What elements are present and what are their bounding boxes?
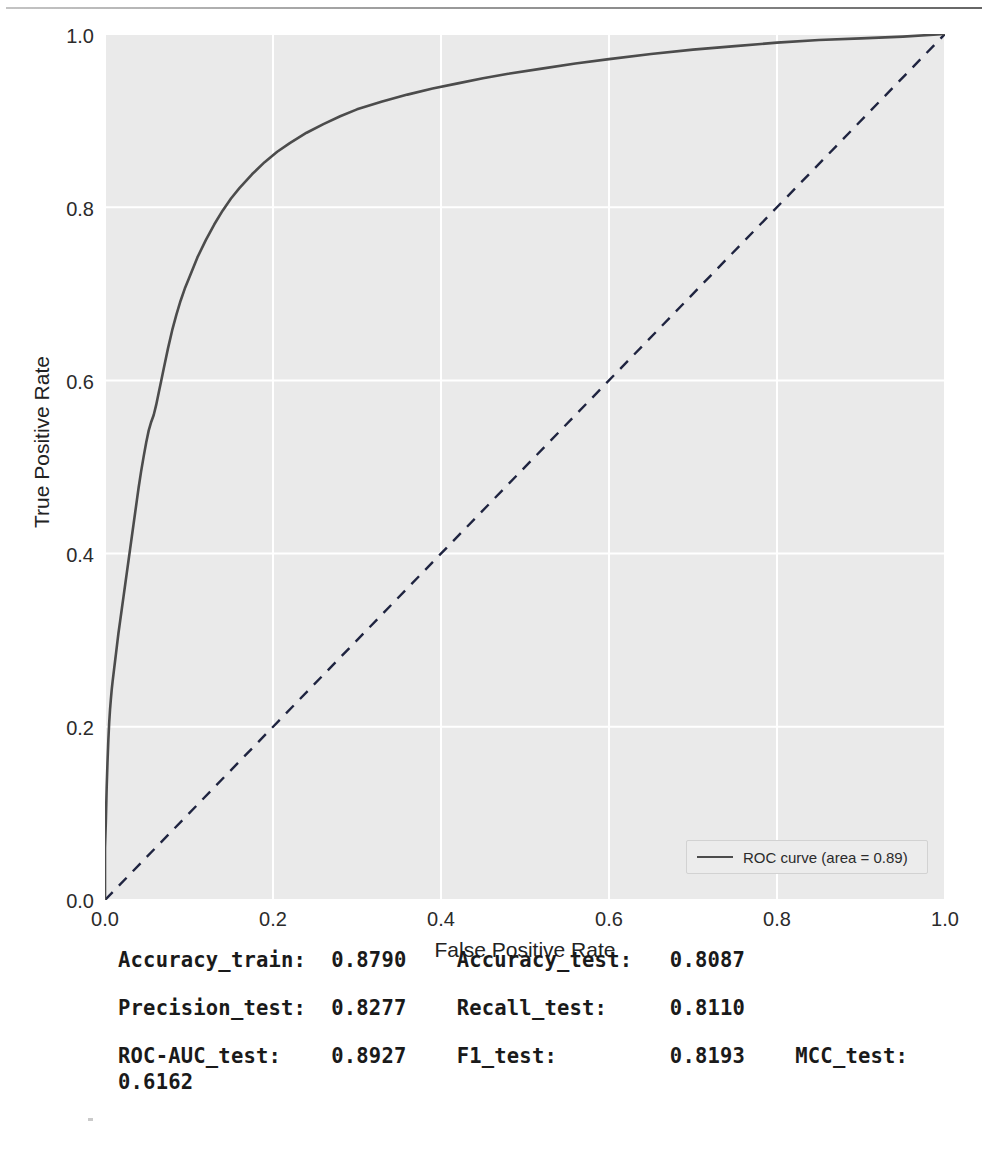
metrics-row: ROC-AUC_test: 0.8927 F1_test: 0.8193 MCC… xyxy=(118,1044,908,1095)
chart-legend: ROC curve (area = 0.89) xyxy=(686,840,928,874)
x-tick-label: 0.8 xyxy=(742,908,812,931)
y-tick-label: 0.2 xyxy=(36,717,94,740)
legend-line-swatch xyxy=(697,856,733,858)
legend-entry-label: ROC curve (area = 0.89) xyxy=(743,849,908,866)
plot-area xyxy=(105,34,945,900)
x-tick-label: 0.6 xyxy=(574,908,644,931)
metrics-row: Accuracy_train: 0.8790 Accuracy_test: 0.… xyxy=(118,948,745,974)
y-axis-label: True Positive Rate xyxy=(30,302,54,582)
x-tick-label: 0.0 xyxy=(70,908,140,931)
y-tick-label: 0.8 xyxy=(36,198,94,221)
metrics-row: Precision_test: 0.8277 Recall_test: 0.81… xyxy=(118,996,745,1022)
x-tick-label: 1.0 xyxy=(910,908,980,931)
chance-diagonal-line xyxy=(105,34,945,900)
plot-canvas xyxy=(105,34,945,900)
y-tick-label: 1.0 xyxy=(36,25,94,48)
roc-figure: 0.0 0.2 0.4 0.6 0.8 1.0 0.0 0.2 0.4 0.6 … xyxy=(0,18,986,938)
scan-artifact-rule xyxy=(6,7,982,9)
scan-dust-speck xyxy=(88,1118,93,1121)
x-tick-label: 0.4 xyxy=(406,908,476,931)
x-tick-label: 0.2 xyxy=(238,908,308,931)
